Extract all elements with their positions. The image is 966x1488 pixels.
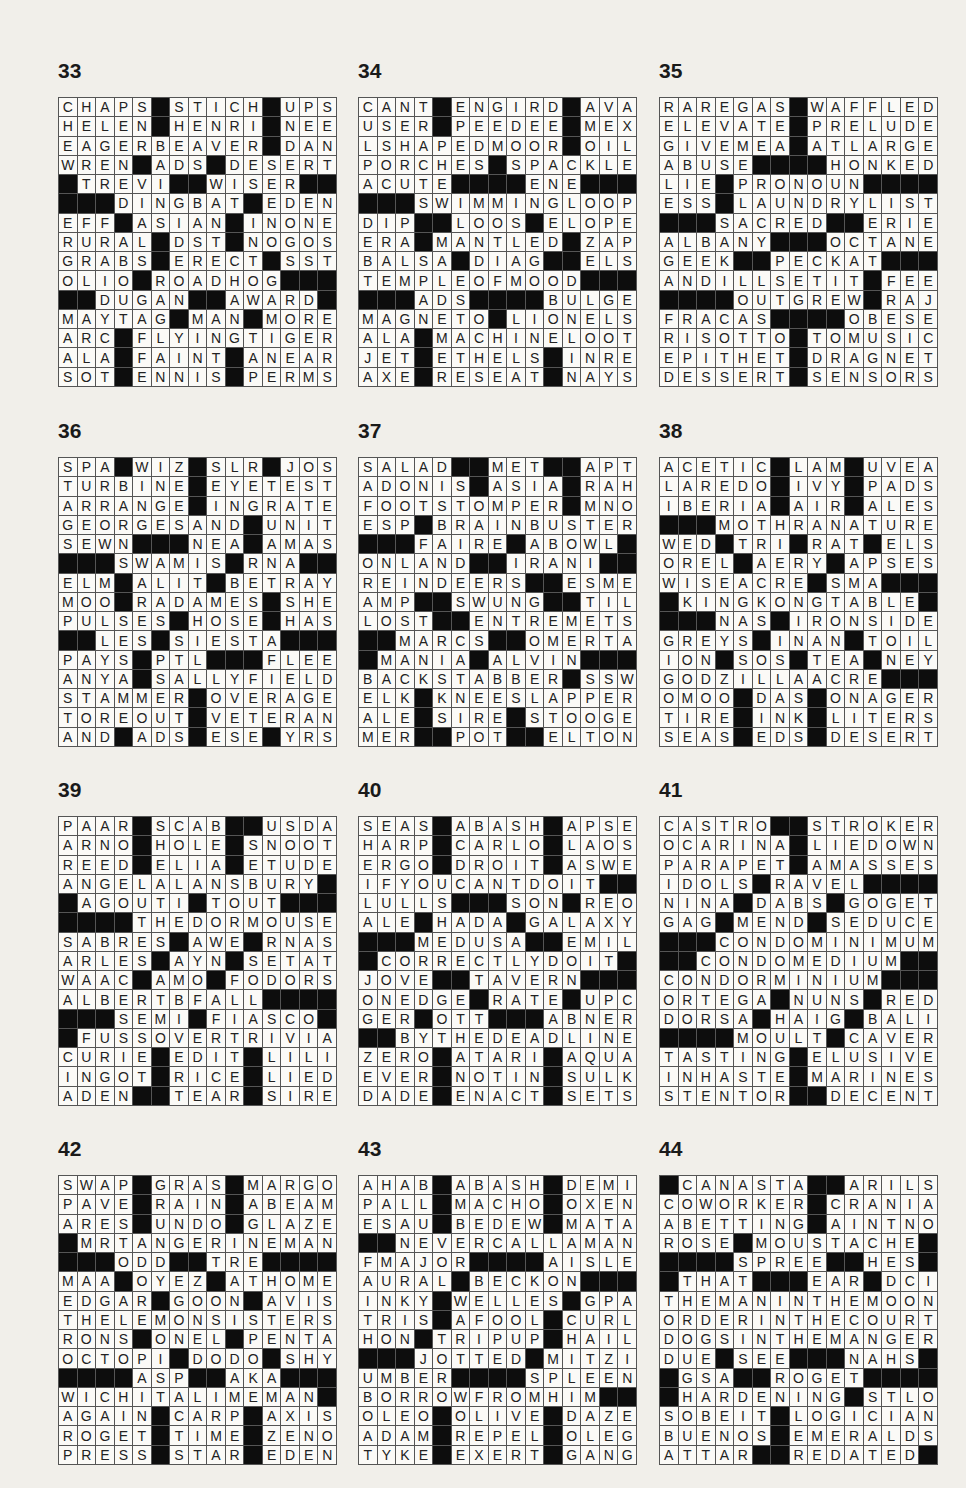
- letter-cell: C: [864, 1087, 882, 1105]
- letter-cell: B: [189, 194, 207, 212]
- black-square: [189, 708, 207, 726]
- letter-cell: F: [660, 310, 678, 328]
- black-square: [660, 291, 678, 309]
- black-square: [263, 990, 281, 1008]
- letter-cell: O: [526, 1195, 544, 1213]
- black-square: [544, 856, 562, 874]
- black-square: [433, 1048, 451, 1066]
- letter-cell: R: [919, 1330, 937, 1348]
- black-square: [359, 1349, 377, 1367]
- crossword-grid: RAREGASWAFFLEDELEVATEPRELUDEGIVEMEAATLAR…: [659, 97, 938, 387]
- letter-cell: G: [300, 689, 318, 707]
- letter-cell: L: [734, 271, 752, 289]
- letter-cell: E: [919, 214, 937, 232]
- black-square: [170, 933, 188, 951]
- letter-cell: R: [919, 689, 937, 707]
- letter-cell: A: [882, 477, 900, 495]
- letter-cell: R: [59, 233, 77, 251]
- letter-cell: E: [618, 156, 636, 174]
- letter-cell: D: [734, 1388, 752, 1406]
- letter-cell: S: [59, 458, 77, 476]
- letter-cell: L: [263, 1215, 281, 1233]
- letter-cell: O: [753, 1087, 771, 1105]
- letter-cell: T: [716, 458, 734, 476]
- letter-cell: G: [660, 631, 678, 649]
- letter-cell: E: [882, 310, 900, 328]
- letter-cell: I: [734, 836, 752, 854]
- letter-cell: H: [526, 817, 544, 835]
- black-square: [244, 516, 262, 534]
- letter-cell: T: [318, 516, 336, 534]
- letter-cell: H: [359, 836, 377, 854]
- letter-cell: I: [207, 98, 225, 116]
- letter-cell: R: [827, 117, 845, 135]
- letter-cell: T: [864, 252, 882, 270]
- letter-cell: T: [263, 574, 281, 592]
- letter-cell: R: [263, 689, 281, 707]
- letter-cell: M: [827, 458, 845, 476]
- letter-cell: S: [133, 631, 151, 649]
- black-square: [790, 1048, 808, 1066]
- letter-cell: E: [115, 990, 133, 1008]
- letter-cell: X: [581, 1195, 599, 1213]
- letter-cell: N: [526, 329, 544, 347]
- black-square: [808, 728, 826, 746]
- letter-cell: T: [827, 593, 845, 611]
- letter-cell: A: [359, 913, 377, 931]
- black-square: [378, 933, 396, 951]
- letter-cell: V: [433, 1234, 451, 1252]
- letter-cell: M: [563, 1215, 581, 1233]
- letter-cell: T: [470, 971, 488, 989]
- letter-cell: M: [59, 593, 77, 611]
- letter-cell: E: [115, 1195, 133, 1213]
- letter-cell: E: [697, 554, 715, 572]
- letter-cell: N: [618, 1234, 636, 1252]
- letter-cell: S: [808, 1234, 826, 1252]
- letter-cell: R: [433, 952, 451, 970]
- letter-cell: D: [189, 1349, 207, 1367]
- letter-cell: L: [207, 1330, 225, 1348]
- letter-cell: E: [452, 952, 470, 970]
- letter-cell: E: [489, 1272, 507, 1290]
- black-square: [96, 554, 114, 572]
- letter-cell: D: [864, 913, 882, 931]
- letter-cell: S: [771, 651, 789, 669]
- letter-cell: M: [59, 1272, 77, 1290]
- letter-cell: A: [207, 856, 225, 874]
- black-square: [544, 1446, 562, 1464]
- black-square: [808, 708, 826, 726]
- letter-cell: Y: [618, 913, 636, 931]
- letter-cell: N: [115, 535, 133, 553]
- letter-cell: T: [318, 477, 336, 495]
- letter-cell: E: [170, 252, 188, 270]
- letter-cell: T: [263, 1311, 281, 1329]
- letter-cell: L: [378, 913, 396, 931]
- black-square: [526, 728, 544, 746]
- letter-cell: I: [864, 1067, 882, 1085]
- letter-cell: A: [827, 1215, 845, 1233]
- letter-cell: A: [396, 329, 414, 347]
- letter-cell: A: [563, 1234, 581, 1252]
- letter-cell: O: [470, 1067, 488, 1085]
- letter-cell: E: [901, 1067, 919, 1085]
- letter-cell: O: [660, 1311, 678, 1329]
- letter-cell: A: [244, 1010, 262, 1028]
- letter-cell: N: [318, 137, 336, 155]
- black-square: [901, 875, 919, 893]
- black-square: [827, 1349, 845, 1367]
- letter-cell: T: [808, 271, 826, 289]
- letter-cell: M: [152, 1311, 170, 1329]
- letter-cell: C: [563, 156, 581, 174]
- letter-cell: E: [845, 836, 863, 854]
- letter-cell: V: [526, 651, 544, 669]
- letter-cell: R: [96, 497, 114, 515]
- black-square: [115, 728, 133, 746]
- letter-cell: T: [544, 708, 562, 726]
- black-square: [115, 348, 133, 366]
- letter-cell: N: [882, 348, 900, 366]
- letter-cell: S: [300, 477, 318, 495]
- letter-cell: O: [378, 156, 396, 174]
- letter-cell: U: [78, 477, 96, 495]
- black-square: [189, 689, 207, 707]
- black-square: [771, 458, 789, 476]
